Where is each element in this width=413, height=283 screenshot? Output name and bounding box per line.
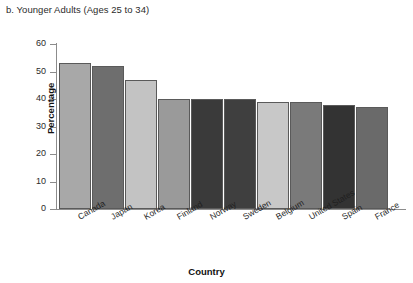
bar — [191, 99, 223, 209]
y-axis-tick: 60 — [50, 44, 56, 45]
y-axis-tick: 10 — [50, 182, 56, 183]
y-axis-tick-label: 0 — [41, 203, 46, 213]
bar — [92, 66, 124, 209]
bar — [125, 80, 157, 209]
panel-title: b. Younger Adults (Ages 25 to 34) — [6, 4, 149, 15]
y-axis-tick-label: 60 — [36, 38, 46, 48]
plot-area: Percentage — [57, 44, 406, 209]
bar — [257, 102, 289, 209]
bar — [59, 63, 91, 209]
y-axis-tick: 50 — [50, 72, 56, 73]
bar — [356, 107, 388, 209]
x-axis-title: Country — [0, 266, 413, 277]
y-axis-tick: 20 — [50, 154, 56, 155]
y-axis-tick: 0 — [50, 209, 56, 210]
y-axis-tick-label: 10 — [36, 176, 46, 186]
y-axis-title: Percentage — [45, 83, 56, 134]
chart-figure: b. Younger Adults (Ages 25 to 34) 010203… — [0, 0, 413, 283]
y-axis-tick-label: 20 — [36, 148, 46, 158]
bar — [224, 99, 256, 209]
y-axis-tick-label: 50 — [36, 66, 46, 76]
bar — [158, 99, 190, 209]
bar — [290, 102, 322, 209]
